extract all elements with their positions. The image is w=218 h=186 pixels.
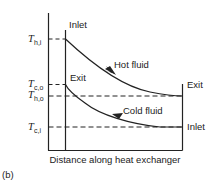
left-exit-label: Exit (70, 72, 86, 83)
counterflow-temperature-diagram: Th,i Tc,o Th,o Tc,i Inlet Exit Hot fluid… (0, 0, 218, 186)
label-th-i: Th,i (28, 33, 42, 46)
cold-fluid-label: Cold fluid (123, 105, 163, 116)
x-axis-label: Distance along heat exchanger (50, 154, 181, 165)
svg-text:c,o: c,o (34, 84, 43, 91)
left-inlet-label: Inlet (69, 19, 87, 30)
hot-fluid-label: Hot fluid (114, 59, 149, 70)
svg-text:h,i: h,i (34, 39, 42, 46)
right-exit-label: Exit (187, 79, 203, 90)
right-inlet-label: Inlet (187, 121, 205, 132)
panel-label: (b) (2, 169, 14, 180)
svg-text:h,o: h,o (34, 95, 44, 102)
svg-text:c,i: c,i (34, 127, 41, 134)
label-tc-i: Tc,i (28, 121, 41, 134)
